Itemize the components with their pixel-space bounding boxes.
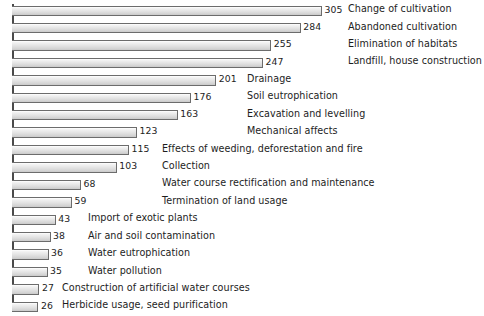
bar-category-label: Landfill, house construction [348, 55, 482, 66]
bar [12, 162, 117, 172]
bar-category-label: Effects of weeding, deforestation and fi… [162, 143, 363, 154]
bar-value-label: 255 [274, 38, 292, 49]
bar-category-label: Water eutrophication [88, 247, 190, 258]
bar-row: 176Soil eutrophication [0, 92, 484, 109]
bar [12, 215, 56, 225]
bar [12, 284, 39, 294]
bar-value-label: 68 [84, 178, 96, 189]
bar [12, 23, 301, 33]
bar-value-label: 163 [180, 108, 198, 119]
bar [12, 145, 129, 155]
bar-row: 43Import of exotic plants [0, 214, 484, 231]
bar-value-label: 43 [58, 213, 70, 224]
bar-value-label: 284 [303, 21, 321, 32]
bar [12, 180, 81, 190]
bar-row: 201Drainage [0, 75, 484, 92]
bar [12, 6, 322, 16]
bar [12, 127, 137, 137]
bar-row: 59Termination of land usage [0, 197, 484, 214]
bar-value-label: 123 [140, 125, 158, 136]
bar-row: 36Water eutrophication [0, 249, 484, 266]
bar-category-label: Collection [162, 160, 210, 171]
bar [12, 93, 191, 103]
bar-category-label: Construction of artificial water courses [62, 282, 250, 293]
bar-row: 163Excavation and levelling [0, 110, 484, 127]
bar-row: 26Herbicide usage, seed purification [0, 301, 484, 316]
horizontal-bar-chart: 305Change of cultivation284Abandoned cul… [0, 0, 484, 316]
bar [12, 197, 72, 207]
bar-row: 38Air and soil contamination [0, 231, 484, 248]
bar-category-label: Abandoned cultivation [348, 21, 457, 32]
bar [12, 267, 48, 277]
bar-category-label: Change of cultivation [348, 3, 452, 14]
bar-value-label: 35 [50, 265, 62, 276]
bar [12, 302, 38, 312]
bar-category-label: Excavation and levelling [247, 108, 365, 119]
bar-value-label: 201 [219, 73, 237, 84]
bar-value-label: 38 [53, 230, 65, 241]
bar-category-label: Soil eutrophication [247, 90, 338, 101]
bar [12, 110, 178, 120]
bar [12, 40, 271, 50]
bar-category-label: Air and soil contamination [88, 230, 215, 241]
bar-value-label: 59 [74, 195, 86, 206]
bar-value-label: 247 [266, 56, 284, 67]
bar-category-label: Water pollution [88, 265, 162, 276]
bar-value-label: 36 [51, 247, 63, 258]
bar-row: 247Landfill, house construction [0, 57, 484, 74]
bar [12, 232, 51, 242]
bar-category-label: Import of exotic plants [88, 212, 198, 223]
bar-value-label: 103 [119, 160, 137, 171]
bar-category-label: Elimination of habitats [348, 38, 457, 49]
bar-value-label: 27 [42, 282, 54, 293]
bar-category-label: Herbicide usage, seed purification [62, 299, 228, 310]
bar-row: 115Effects of weeding, deforestation and… [0, 144, 484, 161]
bar [12, 58, 263, 68]
bar-category-label: Mechanical affects [247, 125, 338, 136]
bar-category-label: Water course rectification and maintenan… [162, 177, 375, 188]
bar-value-label: 176 [193, 91, 211, 102]
bar-category-label: Drainage [247, 73, 291, 84]
bar-category-label: Termination of land usage [162, 195, 288, 206]
bar [12, 75, 216, 85]
bar [12, 249, 49, 259]
bar-value-label: 115 [131, 143, 149, 154]
bar-value-label: 26 [41, 300, 53, 311]
bar-value-label: 305 [325, 4, 343, 15]
